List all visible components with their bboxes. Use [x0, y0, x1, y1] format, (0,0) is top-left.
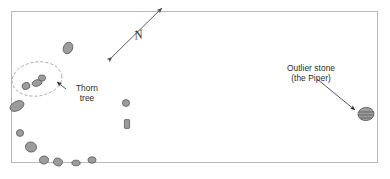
site-plan-figure: N Thorn tree Outlier stone (the Piper): [0, 0, 390, 179]
outlier-stone-leader: [317, 79, 355, 110]
site-plan-canvas: [0, 0, 390, 179]
stone-s06: [16, 130, 23, 137]
north-label: N: [133, 29, 144, 41]
stone-s01: [61, 41, 74, 56]
stone-s07: [24, 141, 37, 154]
thorn-tree-leader: [57, 82, 66, 89]
thorn-tree-label-line2: tree: [67, 93, 107, 103]
thorn-tree-label-line1: Thorn: [67, 83, 107, 93]
stone-s12: [122, 100, 129, 107]
stone-s14: [357, 107, 374, 122]
stone-s09: [53, 157, 64, 167]
thorn-tree-label: Thorn tree: [67, 83, 107, 103]
stone-s13: [124, 120, 129, 129]
stone-s08: [39, 155, 49, 164]
outlier-stone-label-line1: Outlier stone: [277, 63, 345, 73]
stones-layer: [8, 41, 374, 167]
outlier-stone-label-line2: (the Piper): [277, 73, 345, 83]
thorn-tree-enclosure: [10, 59, 64, 100]
stone-s05: [8, 98, 26, 113]
outlier-stone-label: Outlier stone (the Piper): [277, 63, 345, 83]
stone-s11: [88, 156, 97, 163]
stone-s10: [72, 160, 80, 166]
stone-s02: [21, 81, 31, 90]
